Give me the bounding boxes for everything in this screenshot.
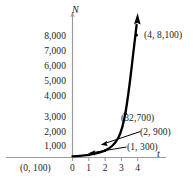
curve-arrowhead xyxy=(134,13,141,25)
point-label-4-8100: (4, 8,100) xyxy=(144,30,182,40)
point-label-1-300: (1, 300) xyxy=(127,142,158,152)
y-tick-4000: 4,000 xyxy=(22,91,66,101)
y-tick-6000: 6,000 xyxy=(22,61,66,71)
y-tick-2000: 2,000 xyxy=(22,127,66,137)
x-tick-3: 3 xyxy=(115,163,127,173)
x-tick-1: 1 xyxy=(83,163,95,173)
y-tick-7000: 7,000 xyxy=(22,46,66,56)
y-tick-5000: 5,000 xyxy=(22,76,66,86)
y-tick-1000: 1,000 xyxy=(22,141,66,151)
x-tick-2: 2 xyxy=(99,163,111,173)
exponential-curve xyxy=(73,25,137,156)
y-tick-3000: 3,000 xyxy=(22,112,66,122)
point-label-3-2700: (32,700) xyxy=(121,113,154,123)
x-tick-4: 4 xyxy=(132,163,144,173)
point-label-2-900: (2, 900) xyxy=(140,127,171,137)
exponential-growth-graph: 8,000 7,000 6,000 5,000 4,000 3,000 2,00… xyxy=(0,0,193,183)
y-tick-8000: 8,000 xyxy=(22,31,66,41)
y-axis-label: N xyxy=(72,4,79,15)
point-label-0-100: (0, 100) xyxy=(20,163,51,173)
x-tick-0: 0 xyxy=(67,163,79,173)
data-point-markers xyxy=(88,33,138,156)
